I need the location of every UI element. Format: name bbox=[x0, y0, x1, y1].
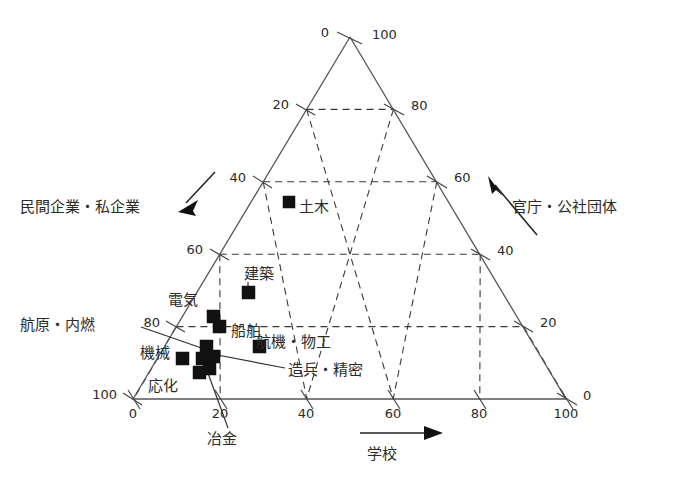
tick-bottom-40: 40 bbox=[298, 406, 315, 421]
tick-right-0: 0 bbox=[583, 388, 591, 403]
left-arrow-shaft bbox=[186, 172, 215, 203]
marker-senpaku bbox=[213, 320, 226, 333]
point-label-doboku: 土木 bbox=[299, 198, 329, 216]
tick-right-20: 20 bbox=[540, 315, 557, 330]
tick-right-80: 80 bbox=[411, 98, 428, 113]
triangle-right-edge bbox=[350, 37, 566, 399]
axis-annotation-right: 官庁・公社団体 bbox=[488, 176, 617, 235]
tick-right-40: 40 bbox=[497, 243, 514, 258]
tick-left-100: 100 bbox=[92, 387, 117, 402]
axis-annotation-left: 民間企業・私企業 bbox=[20, 172, 215, 216]
tick-right-100: 100 bbox=[372, 27, 397, 42]
axis-label-right: 官庁・公社団体 bbox=[512, 198, 617, 216]
triangle-outline bbox=[133, 37, 566, 399]
point-label-yakin: 冶金 bbox=[207, 430, 237, 448]
marker-doboku bbox=[283, 196, 295, 208]
ternary-diagram-canvas: 0 20 40 60 80 100 100 80 60 40 20 0 0 20… bbox=[0, 0, 676, 481]
point-label-kouki-butsuko: 航機・物工 bbox=[256, 333, 331, 351]
marker-kikai bbox=[176, 352, 189, 365]
marker-cluster-e bbox=[193, 366, 206, 379]
tick-left-20: 20 bbox=[272, 97, 289, 112]
left-arrow-head bbox=[178, 200, 198, 216]
bottom-arrow-head bbox=[424, 426, 443, 440]
ternary-diagram-figure: 0 20 40 60 80 100 100 80 60 40 20 0 0 20… bbox=[0, 0, 676, 481]
point-label-denki: 電気 bbox=[168, 291, 198, 309]
point-label-kougen-nainen: 航原・内燃 bbox=[20, 316, 95, 334]
tick-left-80: 80 bbox=[143, 315, 160, 330]
right-arrow-head bbox=[488, 176, 503, 196]
tick-marks bbox=[123, 32, 577, 409]
point-label-kenchiku: 建築 bbox=[244, 265, 274, 283]
tick-bottom-60: 60 bbox=[385, 406, 402, 421]
tick-left-60: 60 bbox=[186, 242, 203, 257]
axis-annotation-bottom: 学校 bbox=[360, 426, 443, 463]
tick-right-60: 60 bbox=[454, 170, 471, 185]
tick-bottom-80: 80 bbox=[471, 406, 488, 421]
tick-bottom-20: 20 bbox=[212, 406, 229, 421]
tick-bottom-0: 0 bbox=[129, 406, 137, 421]
point-label-kikai: 機械 bbox=[140, 344, 170, 362]
tick-bottom-100: 100 bbox=[554, 406, 579, 421]
tick-left-0: 0 bbox=[321, 25, 329, 40]
axis-label-left: 民間企業・私企業 bbox=[20, 198, 140, 216]
tick-labels-bottom: 0 20 40 60 80 100 bbox=[129, 406, 579, 421]
grid-horizontal bbox=[176, 109, 523, 326]
marker-kenchiku bbox=[242, 286, 255, 299]
point-label-ouka: 応化 bbox=[148, 377, 178, 395]
tick-left-40: 40 bbox=[229, 170, 246, 185]
data-markers bbox=[176, 196, 295, 379]
axis-label-bottom: 学校 bbox=[367, 445, 397, 463]
point-label-zouhei-seimitsu: 造兵・精密 bbox=[288, 361, 363, 379]
